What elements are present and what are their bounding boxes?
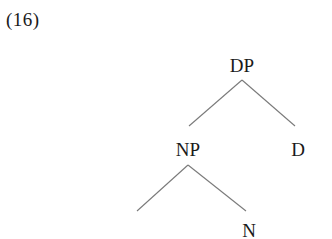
branch-dp-np — [189, 80, 242, 126]
syntax-tree-branches — [0, 0, 332, 239]
node-dp: DP — [230, 56, 254, 75]
node-n: N — [242, 221, 256, 239]
node-np: NP — [176, 140, 200, 159]
branch-np-n — [188, 165, 246, 211]
branch-np-empty-specifier — [137, 165, 188, 211]
branch-dp-d — [242, 80, 295, 126]
node-d: D — [291, 140, 305, 159]
